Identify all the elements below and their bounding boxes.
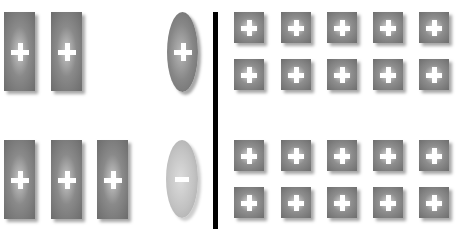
plus-icon [426,148,442,164]
plus-icon [426,195,442,211]
plus-icon [380,148,396,164]
plus-icon [241,195,257,211]
plus-icon [380,20,396,36]
positive-point-charge [234,187,264,218]
positive-point-charge [419,140,449,171]
positive-plate-charge [4,140,35,219]
plus-icon [334,195,350,211]
positive-point-charge [281,187,311,218]
plus-icon [288,67,304,83]
positive-point-charge [373,140,403,171]
plus-icon [288,195,304,211]
positive-point-charge [234,12,264,43]
plus-icon [288,148,304,164]
positive-point-charge [327,59,357,90]
vertical-divider [213,12,218,229]
diagram-description: Charge arrangement diagram: plate charge… [0,0,1,1]
positive-point-charge [327,187,357,218]
positive-point-charge [373,59,403,90]
positive-point-charge [281,59,311,90]
positive-ellipse-charge [167,12,198,92]
positive-point-charge [419,59,449,90]
plus-icon [11,43,29,61]
plus-icon [334,148,350,164]
plus-icon [11,171,29,189]
plus-icon [380,67,396,83]
plus-icon [241,20,257,36]
positive-point-charge [281,12,311,43]
positive-point-charge [373,12,403,43]
plus-icon [58,43,76,61]
plus-icon [58,171,76,189]
plus-icon [104,171,122,189]
positive-plate-charge [4,12,35,91]
minus-icon [175,177,189,182]
plus-icon [334,67,350,83]
plus-icon [241,148,257,164]
positive-point-charge [234,140,264,171]
positive-point-charge [234,59,264,90]
plus-icon [426,20,442,36]
positive-point-charge [327,140,357,171]
positive-plate-charge [51,12,82,91]
plus-icon [380,195,396,211]
positive-point-charge [419,187,449,218]
plus-icon [174,43,192,61]
positive-point-charge [327,12,357,43]
negative-ellipse-charge [166,140,198,218]
positive-point-charge [373,187,403,218]
plus-icon [426,67,442,83]
positive-plate-charge [97,140,128,219]
positive-point-charge [281,140,311,171]
plus-icon [241,67,257,83]
plus-icon [288,20,304,36]
positive-plate-charge [51,140,82,219]
plus-icon [334,20,350,36]
positive-point-charge [419,12,449,43]
